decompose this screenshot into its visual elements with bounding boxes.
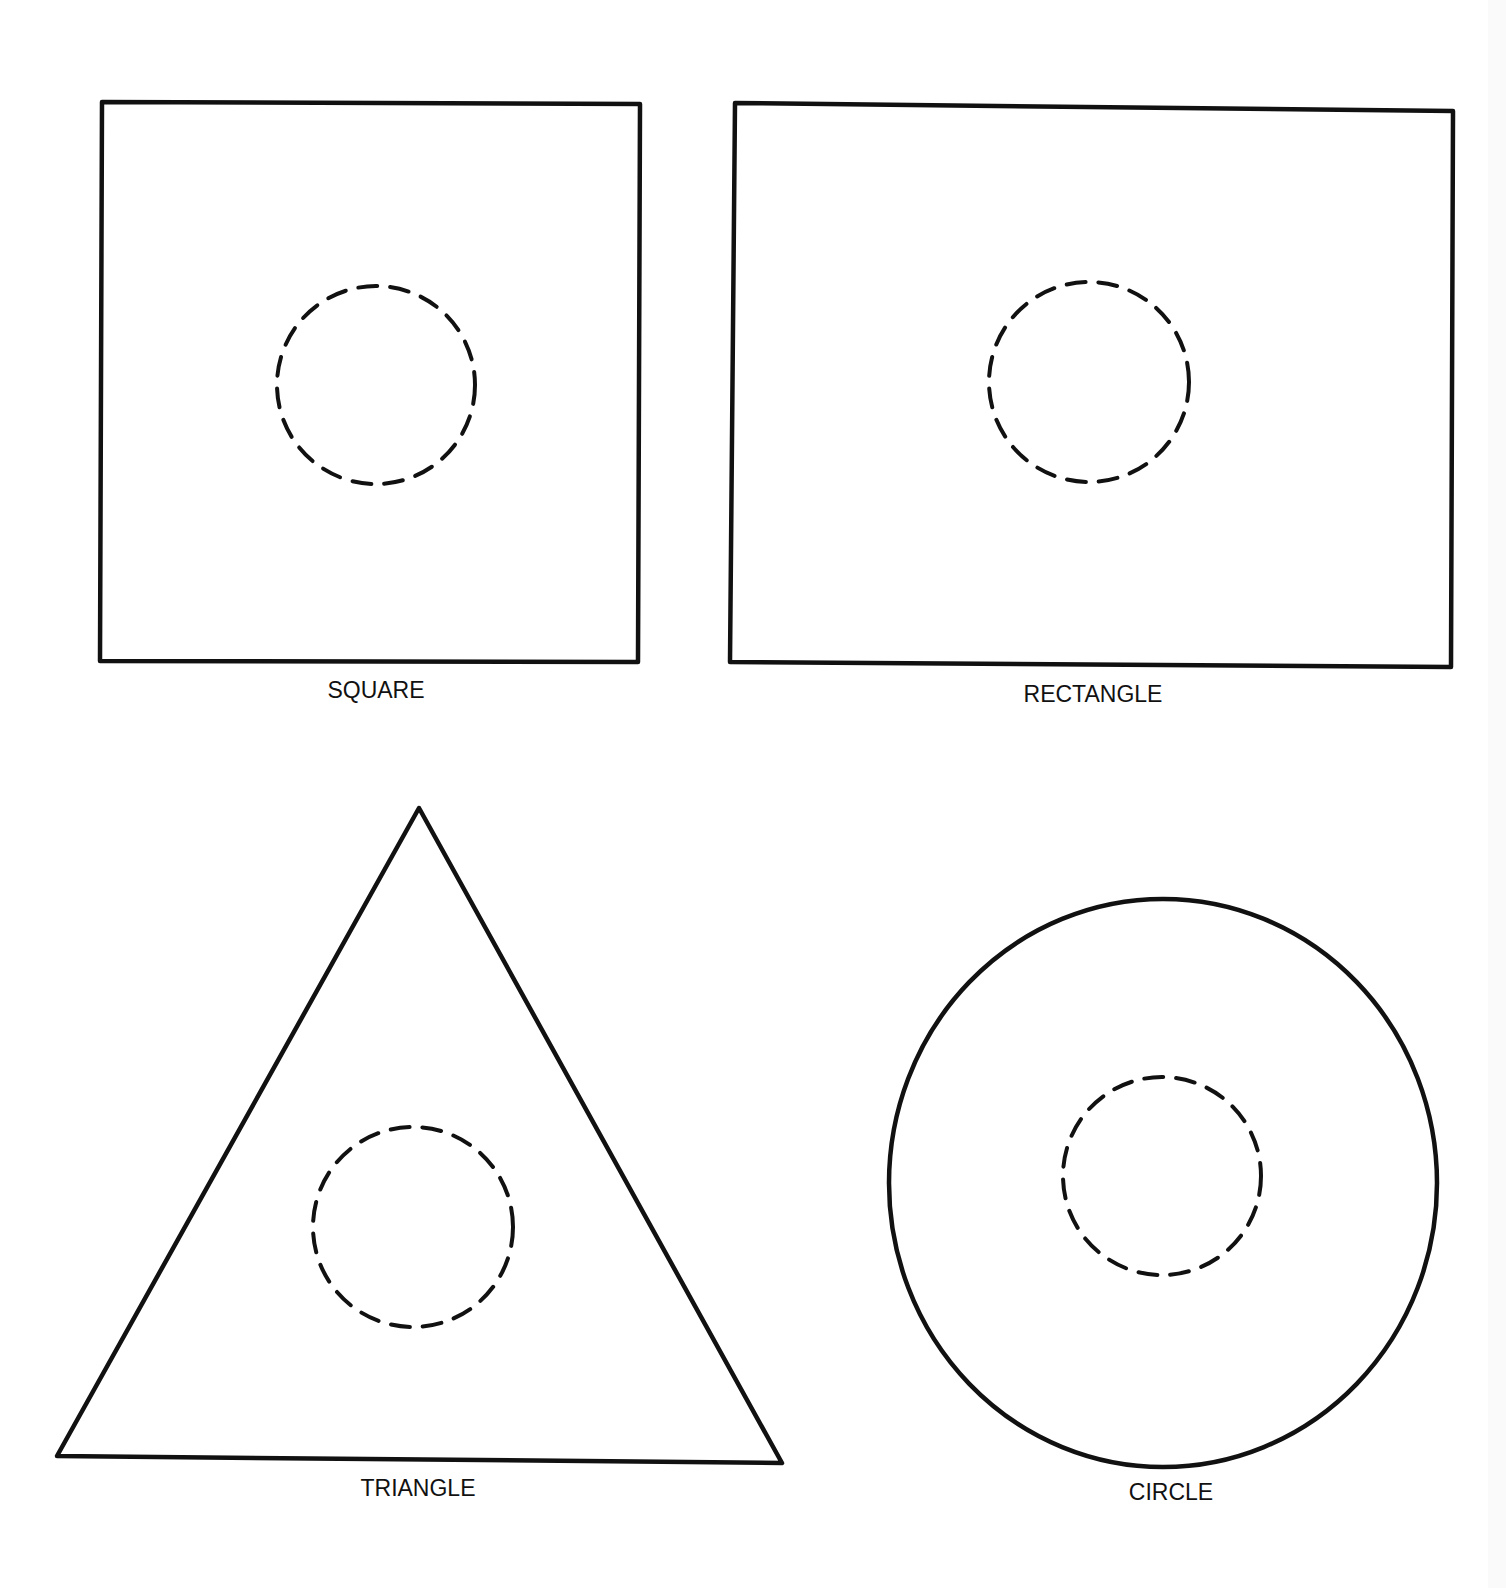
rectangle-dashed-circle — [989, 282, 1189, 482]
square-shape — [100, 102, 640, 662]
triangle-shape — [57, 808, 782, 1463]
rectangle-shape — [730, 103, 1453, 667]
triangle-dashed-circle — [313, 1127, 513, 1327]
shapes-canvas — [0, 0, 1506, 1588]
circle-shape — [889, 899, 1437, 1467]
circle-label: CIRCLE — [1129, 1479, 1213, 1506]
circle-dashed-circle — [1063, 1077, 1261, 1275]
rectangle-label: RECTANGLE — [1024, 681, 1163, 708]
square-dashed-circle — [277, 286, 475, 484]
square-label: SQUARE — [327, 677, 424, 704]
triangle-label: TRIANGLE — [360, 1475, 475, 1502]
shapes-diagram: SQUARE RECTANGLE TRIANGLE CIRCLE — [0, 0, 1506, 1588]
